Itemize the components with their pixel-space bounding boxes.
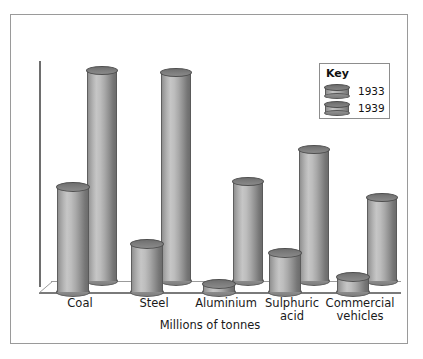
plot-area: CoalSteelAluminiumSulphuricacidCommercia… xyxy=(11,15,409,345)
legend-title: Key xyxy=(326,67,349,80)
cylinder-body xyxy=(161,73,191,281)
cylinder-swatch-1933-icon xyxy=(325,84,349,98)
cylinder-body xyxy=(233,182,263,281)
axis-caption: Millions of tonnes xyxy=(11,318,409,332)
cylinder-body xyxy=(269,253,301,292)
cylinder-top-ellipse xyxy=(366,193,398,202)
legend-box: Key 1933 1939 xyxy=(319,63,390,119)
bar-cylinder-1933-coal xyxy=(57,187,89,292)
y-axis-line xyxy=(39,61,41,287)
floor-perspective-wedge xyxy=(39,281,53,293)
cylinder-top-ellipse xyxy=(336,272,370,282)
cylinder-top-ellipse xyxy=(268,248,302,258)
x-axis-label-line: Commercial xyxy=(321,297,399,310)
bar-cylinder-1933-sulphuric-acid xyxy=(269,253,301,292)
x-axis-label-line: Sulphuric xyxy=(253,297,331,310)
cylinder-body xyxy=(87,71,117,281)
cylinder-body xyxy=(299,150,329,281)
cylinder-top-ellipse xyxy=(130,239,164,249)
cylinder-body xyxy=(367,198,397,281)
bar-cylinder-1939-steel xyxy=(161,73,191,281)
cylinder-top-ellipse xyxy=(202,279,236,289)
legend-label-1933: 1933 xyxy=(358,85,385,97)
cylinder-top-ellipse xyxy=(298,145,330,154)
cylinder-swatch-1939-icon xyxy=(325,101,349,115)
cylinder-top-ellipse xyxy=(86,66,118,75)
x-axis-label-line: Steel xyxy=(115,297,193,310)
bar-cylinder-1933-aluminium xyxy=(203,284,235,292)
cylinder-top-ellipse xyxy=(160,68,192,77)
chart-frame: CoalSteelAluminiumSulphuricacidCommercia… xyxy=(10,14,408,344)
bar-cylinder-1939-coal xyxy=(87,71,117,281)
bar-cylinder-1939-sulphuric-acid xyxy=(299,150,329,281)
x-axis-label-line: Coal xyxy=(41,297,119,310)
cylinder-body xyxy=(57,187,89,292)
bar-cylinder-1933-commercial-vehicles xyxy=(337,277,369,292)
x-axis-label-steel: Steel xyxy=(115,297,193,310)
legend-label-1939: 1939 xyxy=(358,102,385,114)
cylinder-top-ellipse xyxy=(56,182,90,192)
x-axis-label-coal: Coal xyxy=(41,297,119,310)
chart-page: CoalSteelAluminiumSulphuricacidCommercia… xyxy=(0,0,423,359)
bar-cylinder-1939-commercial-vehicles xyxy=(367,198,397,281)
bar-cylinder-1933-steel xyxy=(131,244,163,292)
cylinder-body xyxy=(131,244,163,292)
bar-cylinder-1939-aluminium xyxy=(233,182,263,281)
